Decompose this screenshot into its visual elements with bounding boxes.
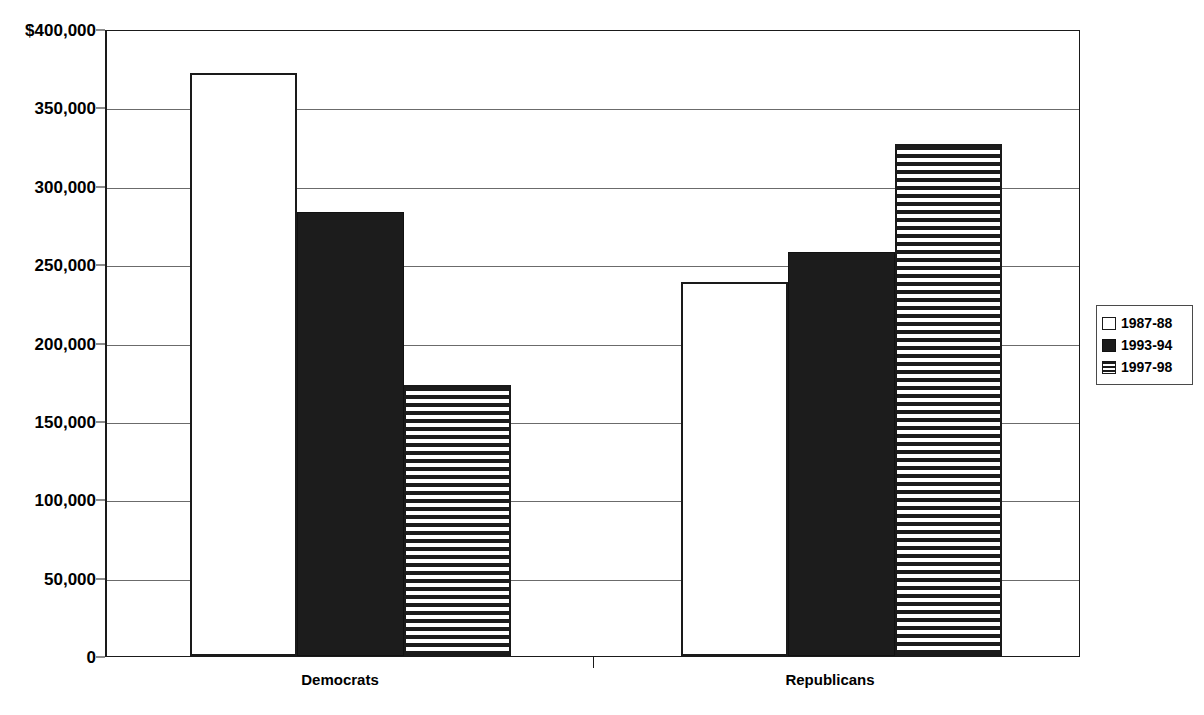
y-axis-tick-mark bbox=[96, 265, 105, 266]
striped-square-icon bbox=[1102, 361, 1116, 374]
y-axis-tick-mark bbox=[96, 343, 105, 344]
y-axis-tick-mark bbox=[96, 578, 105, 579]
legend-item-label: 1997-98 bbox=[1121, 360, 1172, 374]
bar-chart: 050,000100,000150,000200,000250,000300,0… bbox=[0, 0, 1204, 715]
y-axis-tick-mark bbox=[96, 500, 105, 501]
y-axis-tick-label: 0 bbox=[0, 649, 96, 666]
y-axis-tick-label: 150,000 bbox=[0, 413, 96, 430]
y-axis-tick-label: 100,000 bbox=[0, 492, 96, 509]
y-axis-tick-label: 300,000 bbox=[0, 178, 96, 195]
y-axis-tick-label: 350,000 bbox=[0, 100, 96, 117]
bar-democrats-1993-94 bbox=[297, 212, 404, 656]
legend-items: 1987-881993-941997-98 bbox=[1102, 312, 1188, 378]
y-axis-tick-label: 250,000 bbox=[0, 257, 96, 274]
legend-item: 1993-94 bbox=[1102, 334, 1188, 356]
legend-item-label: 1987-88 bbox=[1121, 316, 1172, 330]
y-axis-tick-mark bbox=[96, 108, 105, 109]
bar-republicans-1993-94 bbox=[788, 252, 895, 656]
legend-item: 1997-98 bbox=[1102, 356, 1188, 378]
y-axis-tick-mark bbox=[96, 186, 105, 187]
y-axis-tick-mark bbox=[96, 421, 105, 422]
x-axis-category-separator bbox=[593, 657, 594, 668]
bar-democrats-1997-98 bbox=[404, 385, 511, 656]
bar-republicans-1997-98 bbox=[895, 144, 1002, 656]
legend-item: 1987-88 bbox=[1102, 312, 1188, 334]
plot-area bbox=[105, 30, 1080, 657]
legend-item-label: 1993-94 bbox=[1121, 338, 1172, 352]
y-axis-tick-mark bbox=[96, 657, 105, 658]
bar-republicans-1987-88 bbox=[681, 282, 788, 656]
white-square-icon bbox=[1102, 317, 1116, 330]
legend: 1987-881993-941997-98 bbox=[1096, 305, 1193, 385]
y-axis-tick-label: $400,000 bbox=[0, 22, 96, 39]
black-square-icon bbox=[1102, 339, 1116, 352]
bar-democrats-1987-88 bbox=[190, 73, 297, 656]
y-axis-tick-label: 200,000 bbox=[0, 335, 96, 352]
x-axis-label-republicans: Republicans bbox=[785, 672, 874, 687]
y-axis-tick-label: 50,000 bbox=[0, 570, 96, 587]
x-axis-label-democrats: Democrats bbox=[301, 672, 379, 687]
y-axis-tick-mark bbox=[96, 30, 105, 31]
